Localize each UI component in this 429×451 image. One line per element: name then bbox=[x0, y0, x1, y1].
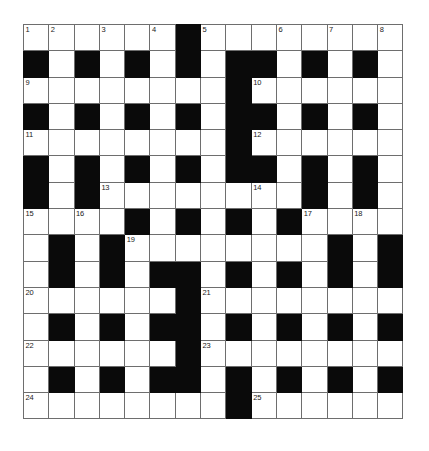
crossword-cell[interactable] bbox=[327, 103, 352, 129]
crossword-cell[interactable] bbox=[251, 261, 276, 287]
crossword-cell[interactable]: 19 bbox=[125, 235, 150, 261]
crossword-cell[interactable] bbox=[302, 366, 327, 392]
crossword-cell[interactable] bbox=[99, 51, 124, 77]
crossword-cell[interactable] bbox=[201, 314, 226, 340]
crossword-cell[interactable] bbox=[276, 182, 301, 208]
crossword-cell[interactable]: 25 bbox=[251, 393, 276, 419]
crossword-cell[interactable] bbox=[302, 314, 327, 340]
crossword-cell[interactable] bbox=[150, 235, 175, 261]
crossword-cell[interactable] bbox=[24, 314, 49, 340]
crossword-cell[interactable] bbox=[125, 393, 150, 419]
crossword-cell[interactable] bbox=[24, 261, 49, 287]
crossword-cell[interactable] bbox=[125, 314, 150, 340]
crossword-cell[interactable]: 2 bbox=[49, 25, 74, 51]
crossword-cell[interactable] bbox=[276, 287, 301, 313]
crossword-cell[interactable] bbox=[276, 130, 301, 156]
crossword-cell[interactable] bbox=[378, 130, 403, 156]
crossword-cell[interactable] bbox=[352, 25, 377, 51]
crossword-cell[interactable] bbox=[150, 156, 175, 182]
crossword-cell[interactable]: 7 bbox=[327, 25, 352, 51]
crossword-cell[interactable] bbox=[251, 340, 276, 366]
crossword-cell[interactable] bbox=[74, 366, 99, 392]
crossword-cell[interactable] bbox=[226, 340, 251, 366]
crossword-cell[interactable] bbox=[49, 393, 74, 419]
crossword-cell[interactable] bbox=[150, 130, 175, 156]
crossword-cell[interactable] bbox=[150, 182, 175, 208]
crossword-cell[interactable] bbox=[276, 393, 301, 419]
crossword-cell[interactable] bbox=[125, 130, 150, 156]
crossword-cell[interactable] bbox=[175, 77, 200, 103]
crossword-cell[interactable] bbox=[352, 314, 377, 340]
crossword-cell[interactable] bbox=[175, 182, 200, 208]
crossword-cell[interactable] bbox=[302, 130, 327, 156]
crossword-cell[interactable] bbox=[201, 235, 226, 261]
crossword-cell[interactable]: 16 bbox=[74, 209, 99, 235]
crossword-cell[interactable] bbox=[352, 235, 377, 261]
crossword-cell[interactable]: 23 bbox=[201, 340, 226, 366]
crossword-cell[interactable] bbox=[251, 287, 276, 313]
crossword-cell[interactable] bbox=[378, 77, 403, 103]
crossword-cell[interactable] bbox=[352, 261, 377, 287]
crossword-cell[interactable] bbox=[125, 366, 150, 392]
crossword-cell[interactable] bbox=[302, 287, 327, 313]
crossword-cell[interactable] bbox=[276, 51, 301, 77]
crossword-cell[interactable] bbox=[352, 393, 377, 419]
crossword-cell[interactable] bbox=[251, 366, 276, 392]
crossword-cell[interactable] bbox=[99, 340, 124, 366]
crossword-cell[interactable] bbox=[99, 156, 124, 182]
crossword-cell[interactable] bbox=[74, 235, 99, 261]
crossword-cell[interactable]: 8 bbox=[378, 25, 403, 51]
crossword-cell[interactable]: 3 bbox=[99, 25, 124, 51]
crossword-cell[interactable]: 10 bbox=[251, 77, 276, 103]
crossword-cell[interactable] bbox=[99, 287, 124, 313]
crossword-cell[interactable] bbox=[150, 340, 175, 366]
crossword-cell[interactable]: 17 bbox=[302, 209, 327, 235]
crossword-cell[interactable] bbox=[99, 393, 124, 419]
crossword-cell[interactable] bbox=[99, 103, 124, 129]
crossword-cell[interactable] bbox=[226, 287, 251, 313]
crossword-cell[interactable] bbox=[226, 182, 251, 208]
crossword-cell[interactable] bbox=[125, 340, 150, 366]
crossword-cell[interactable] bbox=[302, 261, 327, 287]
crossword-cell[interactable] bbox=[302, 25, 327, 51]
crossword-cell[interactable] bbox=[302, 77, 327, 103]
crossword-cell[interactable]: 20 bbox=[24, 287, 49, 313]
crossword-cell[interactable] bbox=[74, 261, 99, 287]
crossword-cell[interactable] bbox=[378, 103, 403, 129]
crossword-cell[interactable] bbox=[49, 156, 74, 182]
crossword-cell[interactable] bbox=[276, 156, 301, 182]
crossword-cell[interactable] bbox=[150, 287, 175, 313]
crossword-cell[interactable] bbox=[201, 366, 226, 392]
crossword-cell[interactable] bbox=[49, 51, 74, 77]
crossword-cell[interactable] bbox=[327, 51, 352, 77]
crossword-cell[interactable] bbox=[378, 51, 403, 77]
crossword-cell[interactable]: 9 bbox=[24, 77, 49, 103]
crossword-cell[interactable] bbox=[125, 261, 150, 287]
crossword-cell[interactable] bbox=[226, 25, 251, 51]
crossword-cell[interactable] bbox=[125, 25, 150, 51]
crossword-cell[interactable] bbox=[150, 209, 175, 235]
crossword-cell[interactable] bbox=[327, 393, 352, 419]
crossword-cell[interactable] bbox=[327, 130, 352, 156]
crossword-cell[interactable] bbox=[378, 287, 403, 313]
crossword-cell[interactable]: 24 bbox=[24, 393, 49, 419]
crossword-cell[interactable]: 21 bbox=[201, 287, 226, 313]
crossword-cell[interactable] bbox=[24, 235, 49, 261]
crossword-cell[interactable] bbox=[99, 77, 124, 103]
crossword-cell[interactable] bbox=[74, 314, 99, 340]
crossword-cell[interactable] bbox=[251, 25, 276, 51]
crossword-cell[interactable]: 11 bbox=[24, 130, 49, 156]
crossword-cell[interactable] bbox=[49, 182, 74, 208]
crossword-cell[interactable] bbox=[302, 393, 327, 419]
crossword-cell[interactable] bbox=[276, 77, 301, 103]
crossword-cell[interactable] bbox=[49, 77, 74, 103]
crossword-cell[interactable] bbox=[352, 340, 377, 366]
crossword-cell[interactable] bbox=[327, 156, 352, 182]
crossword-cell[interactable]: 18 bbox=[352, 209, 377, 235]
crossword-cell[interactable] bbox=[327, 287, 352, 313]
crossword-cell[interactable] bbox=[150, 51, 175, 77]
crossword-cell[interactable] bbox=[276, 340, 301, 366]
crossword-cell[interactable] bbox=[175, 130, 200, 156]
crossword-cell[interactable] bbox=[201, 77, 226, 103]
crossword-cell[interactable] bbox=[378, 156, 403, 182]
